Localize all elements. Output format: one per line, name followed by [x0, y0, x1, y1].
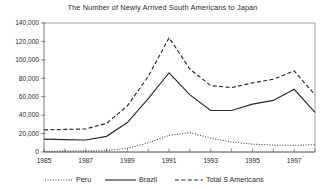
y-axis-tick-label: 40,000 — [19, 111, 40, 118]
x-axis-tick-marks — [44, 149, 315, 153]
chart-container: The Number of Newly Arrived South Americ… — [0, 0, 325, 189]
y-axis-tick-label: 20,000 — [19, 130, 40, 137]
x-axis-tick-label: 1993 — [203, 157, 218, 164]
line-chart-plot: 020,00040,00060,00080,000100,000120,0001… — [0, 0, 325, 189]
x-axis-tick-label: 1989 — [120, 157, 135, 164]
x-axis-tick-label: 1997 — [287, 157, 302, 164]
y-axis-tick-label: 60,000 — [19, 93, 40, 100]
legend-label-total-s-americans: Total S Americans — [206, 175, 264, 184]
y-axis-tick-label: 120,000 — [15, 38, 39, 45]
y-axis-tick-label: 100,000 — [15, 56, 39, 63]
x-axis-tick-label: 1987 — [78, 157, 93, 164]
y-axis-tick-label: 140,000 — [15, 19, 39, 26]
chart-legend: Peru Brazil Total S Americans — [45, 175, 264, 184]
y-axis-tick-marks — [41, 23, 46, 152]
series-line-brazil — [44, 73, 315, 140]
series-line-peru — [44, 133, 315, 152]
x-axis-tick-label: 1985 — [37, 157, 52, 164]
x-axis-tick-label: 1991 — [162, 157, 177, 164]
legend-label-peru: Peru — [76, 175, 91, 184]
x-axis-tick-labels: 1985198719891991199319951997 — [37, 157, 302, 164]
plot-frame — [44, 23, 315, 152]
legend-label-brazil: Brazil — [139, 175, 157, 184]
y-axis-tick-label: 80,000 — [19, 75, 40, 82]
y-axis-tick-label: 0 — [35, 148, 39, 155]
x-axis-tick-label: 1995 — [245, 157, 260, 164]
y-axis-tick-labels: 020,00040,00060,00080,000100,000120,0001… — [15, 19, 39, 155]
